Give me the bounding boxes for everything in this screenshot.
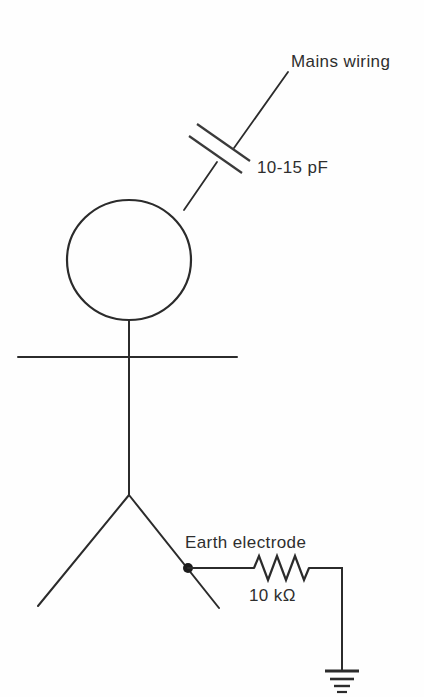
capacitor-plate-upper: [197, 124, 250, 161]
capacitance-value-label: 10-15 pF: [257, 159, 328, 176]
resistor-symbol: [254, 556, 309, 580]
person-head: [67, 200, 191, 320]
capacitor-to-body-lead: [184, 162, 217, 210]
capacitor-plate-lower: [189, 136, 242, 173]
person-left-leg: [38, 495, 129, 606]
earth-electrode-label: Earth electrode: [185, 534, 306, 551]
mains-wiring-label: Mains wiring: [291, 53, 390, 70]
diagram-canvas: [0, 0, 424, 697]
ground-wire: [309, 568, 342, 671]
circuit-diagram: Mains wiring 10-15 pF Earth electrode 10…: [0, 0, 424, 697]
resistance-value-label: 10 kΩ: [249, 587, 296, 604]
mains-wiring-lead: [234, 72, 288, 148]
